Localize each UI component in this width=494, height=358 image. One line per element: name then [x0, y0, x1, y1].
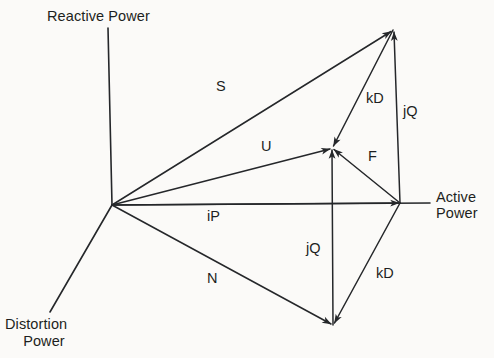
vector-jq-upper [394, 32, 400, 203]
vector-label-n: N [207, 270, 218, 287]
axis-label-active-power-line1: Active [436, 189, 476, 206]
vector-ip [112, 203, 399, 205]
axis-label-reactive-power: Reactive Power [47, 8, 150, 25]
vector-kd-lower [335, 203, 401, 323]
vector-kd-upper [334, 30, 394, 146]
vector-jq-lower [332, 150, 333, 325]
vector-label-f: F [368, 148, 377, 165]
vector-n [112, 205, 331, 324]
vector-label-jq-lower: jQ [306, 240, 321, 257]
vector-u [112, 149, 330, 205]
vector-s [112, 32, 391, 206]
vector-canvas [0, 0, 494, 358]
axis-reactive-power [108, 28, 112, 205]
power-vector-diagram: Reactive Power Active Power Distortion P… [0, 0, 494, 358]
axis-label-active-power-line2: Power [436, 205, 478, 222]
vector-label-ip: iP [207, 208, 220, 225]
vector-label-s: S [216, 78, 226, 95]
axis-distortion-power [50, 205, 112, 312]
vector-label-u: U [261, 138, 272, 155]
vector-label-kd-upper: kD [366, 90, 384, 107]
vector-label-jq-upper: jQ [403, 103, 418, 120]
axis-label-distortion-power-line2: Power [5, 333, 83, 350]
vector-label-kd-lower: kD [376, 265, 394, 282]
vector-f [334, 150, 400, 204]
axis-label-distortion-power-line1: Distortion [5, 316, 67, 333]
